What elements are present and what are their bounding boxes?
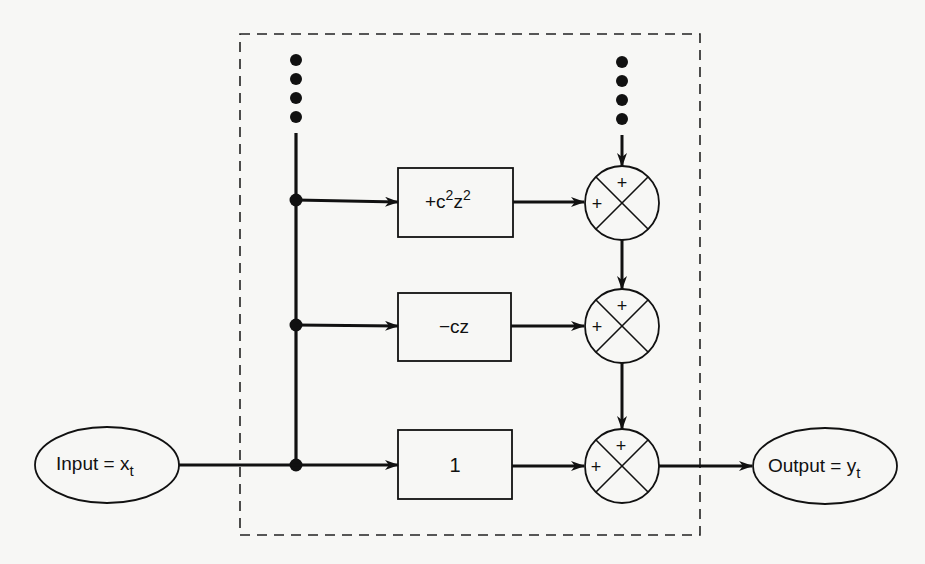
summer-bottom-left-sign: + <box>591 457 602 477</box>
input-subscript: t <box>129 462 134 479</box>
block-top: +c2z2 <box>398 168 513 237</box>
input-node: Input = xt <box>35 427 179 503</box>
input-label: Input = x <box>56 453 130 474</box>
output-node: Output = yt <box>753 428 897 504</box>
summer-middle-left-sign: + <box>592 317 603 337</box>
summer-top-top-sign: + <box>617 173 628 193</box>
svg-text:Output = yt: Output = yt <box>768 455 861 481</box>
dashed-boundary <box>240 34 700 535</box>
block-top-var: z <box>453 191 463 212</box>
block-middle: −cz <box>398 293 511 361</box>
block-bottom-label: 1 <box>449 454 460 476</box>
output-label: Output = y <box>768 455 857 476</box>
block-top-sup2: 2 <box>463 187 471 203</box>
left-continuation-dots <box>290 54 302 123</box>
block-bottom: 1 <box>398 430 512 499</box>
edge-junction-top-to-block-top <box>296 200 398 202</box>
block-top-coef: +c <box>425 191 446 212</box>
summer-bottom: + + <box>585 429 659 503</box>
summer-bottom-top-sign: + <box>616 436 627 456</box>
block-top-sup1: 2 <box>446 187 454 203</box>
output-subscript: t <box>856 464 861 481</box>
right-continuation-dots <box>616 56 628 125</box>
summer-middle-top-sign: + <box>617 296 628 316</box>
svg-text:+c2z2: +c2z2 <box>425 187 471 212</box>
edge-junction-middle-to-block-middle <box>296 325 398 326</box>
block-diagram: Input = xt +c2z2 −cz 1 + + <box>0 0 925 564</box>
svg-text:Input = xt: Input = xt <box>56 453 134 479</box>
summer-middle: + + <box>585 289 659 363</box>
summer-top: + + <box>585 166 659 240</box>
block-middle-label: −cz <box>439 316 469 337</box>
summer-top-left-sign: + <box>592 194 603 214</box>
